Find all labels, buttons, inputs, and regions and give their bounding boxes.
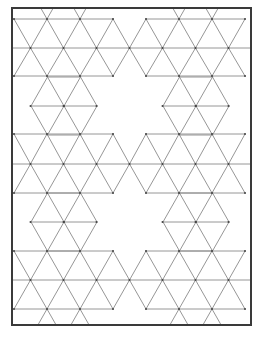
vertex-dot: [79, 308, 81, 310]
vertex-dot: [178, 192, 180, 194]
vertex-dot: [46, 250, 48, 252]
vertex-dot: [178, 75, 180, 77]
vertex-dot: [211, 308, 213, 310]
vertex-dot: [96, 163, 98, 165]
vertex-dot: [178, 18, 180, 20]
vertex-dot: [162, 279, 164, 281]
vertex-dot: [162, 163, 164, 165]
vertex-dot: [63, 279, 65, 281]
vertex-dot: [13, 75, 15, 77]
vertex-dot: [63, 163, 65, 165]
vertex-dot: [195, 221, 197, 223]
vertex-dot: [129, 279, 131, 281]
vertex-dot: [30, 105, 32, 107]
vertex-dot: [211, 133, 213, 135]
vertex-dot: [228, 47, 230, 49]
vertex-dot: [211, 18, 213, 20]
vertex-dot: [63, 221, 65, 223]
vertex-dot: [13, 192, 15, 194]
vertex-dot: [178, 308, 180, 310]
vertex-dot: [13, 308, 15, 310]
vertex-dot: [30, 47, 32, 49]
vertex-dot: [145, 18, 147, 20]
vertex-dot: [178, 250, 180, 252]
vertex-dot: [145, 192, 147, 194]
vertex-dot: [211, 75, 213, 77]
vertex-dot: [96, 221, 98, 223]
vertex-dot: [46, 192, 48, 194]
vertex-dot: [129, 47, 131, 49]
vertex-dot: [178, 133, 180, 135]
vertex-dot: [195, 279, 197, 281]
vertex-dot: [244, 75, 246, 77]
vertex-dot: [112, 192, 114, 194]
vertex-dot: [79, 18, 81, 20]
vertex-dot: [228, 163, 230, 165]
vertex-dot: [63, 105, 65, 107]
vertex-dot: [228, 105, 230, 107]
vertex-dot: [211, 250, 213, 252]
vertex-dot: [79, 133, 81, 135]
vertex-dot: [13, 133, 15, 135]
vertex-dot: [13, 18, 15, 20]
vertex-dot: [46, 75, 48, 77]
vertex-dot: [112, 75, 114, 77]
vertex-dot: [129, 163, 131, 165]
vertex-dot: [112, 308, 114, 310]
vertex-dot: [30, 221, 32, 223]
vertex-dot: [145, 308, 147, 310]
vertex-dot: [13, 250, 15, 252]
vertex-dot: [112, 250, 114, 252]
vertex-dot: [112, 18, 114, 20]
vertex-dot: [30, 279, 32, 281]
vertex-dot: [195, 47, 197, 49]
vertex-dot: [162, 221, 164, 223]
vertex-dot: [46, 18, 48, 20]
vertex-dot: [195, 105, 197, 107]
vertex-dot: [244, 133, 246, 135]
vertex-dot: [145, 250, 147, 252]
vertex-dot: [244, 18, 246, 20]
vertex-dot: [145, 75, 147, 77]
vertex-dot: [228, 221, 230, 223]
vertex-dot: [112, 133, 114, 135]
vertex-dot: [244, 308, 246, 310]
tessellation-diagram: [0, 0, 264, 344]
vertex-dot: [96, 47, 98, 49]
vertex-dot: [79, 192, 81, 194]
vertex-dot: [244, 250, 246, 252]
vertex-dot: [228, 279, 230, 281]
vertex-dot: [79, 250, 81, 252]
vertex-dot: [79, 75, 81, 77]
vertex-dot: [211, 192, 213, 194]
vertex-dot: [46, 133, 48, 135]
vertex-dot: [46, 308, 48, 310]
vertex-dot: [244, 192, 246, 194]
vertex-dot: [96, 279, 98, 281]
vertex-dot: [96, 105, 98, 107]
vertex-dot: [30, 163, 32, 165]
vertex-dot: [195, 163, 197, 165]
vertex-dot: [63, 47, 65, 49]
vertex-dot: [162, 47, 164, 49]
vertex-dot: [145, 133, 147, 135]
vertex-dot: [162, 105, 164, 107]
